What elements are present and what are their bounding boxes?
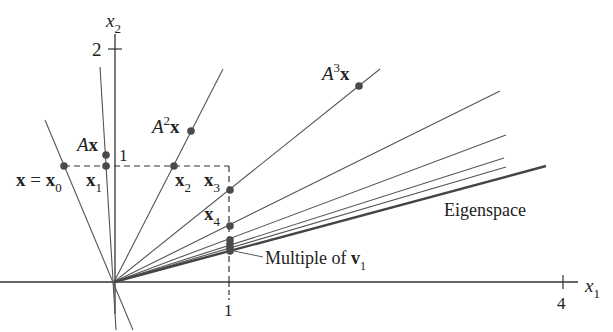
label-x4: x4	[204, 203, 221, 229]
x-tick-4-label: 4	[557, 294, 566, 313]
label-x3: x3	[204, 169, 220, 195]
point-x3	[226, 186, 234, 194]
iterate-lines	[45, 67, 546, 330]
ax-line	[100, 67, 116, 330]
label-x-equals-x0: x = x0	[16, 169, 62, 195]
label-eigenspace: Eigenspace	[444, 200, 526, 220]
point-x1	[102, 162, 110, 170]
y-axis-label: x2	[105, 10, 121, 36]
label-A3x: A3x	[320, 60, 350, 84]
axis-labels: x2 x1 2 1 1 4	[92, 10, 600, 320]
y-tick-2-label: 2	[92, 39, 102, 60]
point-Ax	[102, 151, 110, 159]
label-A2x: A2x	[150, 113, 180, 137]
label-x2: x2	[175, 169, 191, 195]
point-x4	[226, 222, 234, 230]
point-x0	[60, 162, 68, 170]
label-x1: x1	[86, 169, 102, 195]
label-multiple-of-v1: Multiple of v1	[265, 248, 366, 273]
x-tick-1-label: 1	[224, 301, 233, 320]
point-x8	[226, 247, 234, 255]
point-A2x	[187, 127, 195, 135]
eigenvector-power-method-diagram: x2 x1 2 1 1 4 x = x0 Ax x1 A2x x2 x3 x4 …	[0, 0, 613, 332]
point-A3x	[355, 82, 363, 90]
y-tick-1-label: 1	[119, 146, 128, 165]
x-axis-label: x1	[584, 275, 600, 301]
multiple-leader-line	[234, 251, 263, 257]
label-Ax: Ax	[75, 134, 99, 155]
